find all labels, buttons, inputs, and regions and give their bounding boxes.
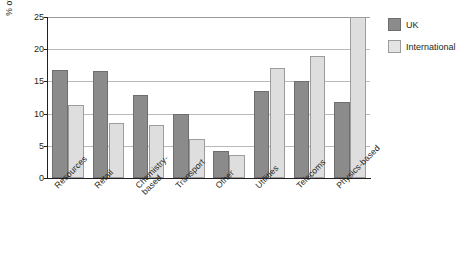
legend-swatch-icon [388,40,401,53]
y-tick-label-10: 10 [22,109,44,119]
bar-group [93,17,125,178]
bar-group [334,17,366,178]
y-tick-label-0: 0 [22,173,44,183]
y-tick-mark-10 [44,114,48,115]
y-tick-mark-15 [44,81,48,82]
bar [294,81,310,178]
y-tick-label-20: 20 [22,44,44,54]
y-tick-label-25: 25 [22,12,44,22]
bar [254,91,270,178]
bar-group [254,17,286,178]
y-tick-mark-20 [44,49,48,50]
y-tick-label-15: 15 [22,76,44,86]
plot-area [48,17,370,178]
y-tick-mark-0 [44,178,48,179]
legend-label: International [406,42,456,52]
bar-group [294,17,326,178]
bar-group [133,17,165,178]
bar [93,71,109,178]
bar [270,68,286,178]
legend-item: UK [388,18,466,31]
y-tick-mark-25 [44,17,48,18]
bar-group [173,17,205,178]
bar [334,102,350,178]
y-axis-ticks: 0510152025 [22,0,44,256]
y-axis-title: % of total capital expenditure [2,0,16,42]
bar-group [52,17,84,178]
bar-group [213,17,245,178]
y-tick-mark-5 [44,146,48,147]
bar-chart: % of total capital expenditure 051015202… [0,0,467,256]
chart-legend: UKInternational [388,18,466,62]
bar [133,95,149,178]
legend-swatch-icon [388,18,401,31]
legend-item: International [388,40,466,53]
legend-label: UK [406,20,419,30]
bar [52,70,68,178]
y-tick-label-5: 5 [22,141,44,151]
